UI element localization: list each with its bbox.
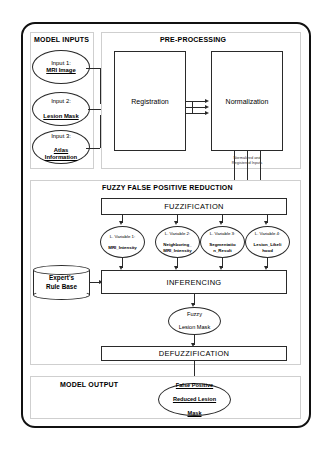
edge-reg-norm-3 <box>186 113 206 114</box>
edge-reg-norm-1 <box>186 101 206 102</box>
arrow-fuzz-lv4 <box>264 221 268 225</box>
panel-title-fuzzy-reduction: FUZZY FALSE POSITIVE REDUCTION <box>102 184 233 191</box>
lv3-line3: n_Result <box>213 248 232 253</box>
arrow-reg-norm-1 <box>205 99 209 103</box>
fuzzy-lesion-mask-label: Fuzzy Lesion Mask <box>175 311 214 331</box>
process-label-inferencing: INFERENCING <box>167 278 222 287</box>
linguistic-variable-2: L. Variable 2: Neighboring_ MRI_Intensit… <box>155 226 200 258</box>
process-box-registration: Registration <box>114 51 186 151</box>
rule-base-line2: Rule Base <box>46 283 77 291</box>
linguistic-variable-4-label: L. Variable 4: Lesion_Likeli hood <box>251 231 285 253</box>
lv4-line3: hood <box>262 248 273 253</box>
lv2-line1: L. Variable 2: <box>163 231 193 237</box>
linguistic-variable-1: L. Variable 1: MRI_Intensity <box>100 226 145 258</box>
input-label-1: Input 1: MRI Image <box>42 60 79 74</box>
linguistic-variable-2-label: L. Variable 2: Neighboring_ MRI_Intensit… <box>161 231 195 253</box>
lv1-line2: MRI_Intensity <box>108 245 137 250</box>
arrow-reg-norm-2 <box>205 105 209 109</box>
input-ellipse-lesion-mask: Input 2: Lesion Mask <box>32 92 90 126</box>
linguistic-variable-4: L. Variable 4: Lesion_Likeli hood <box>245 226 290 258</box>
edge-reg-norm-2 <box>186 107 206 108</box>
input-name-2: Lesion Mask <box>41 113 80 120</box>
arrow-fuzz-lv3 <box>219 221 223 225</box>
edge-input1-h1 <box>86 68 100 69</box>
input-label-3: Input 3: Atlas Information <box>33 133 89 162</box>
linguistic-variable-3: L. Variable 3: Segmentatio n_Result <box>200 226 245 258</box>
ellipse-model-output: False Positive Reduced Lesion Mask <box>158 383 231 416</box>
lv1-line1: L. Variable 1: <box>108 234 138 240</box>
lv4-line1: L. Variable 4: <box>253 231 283 237</box>
panel-title-pre-processing: PRE-PROCESSING <box>160 36 226 43</box>
edge-note-line1: Normalized and <box>233 155 260 160</box>
diagram-canvas: MODEL INPUTS Input 1: MRI Image Input 2:… <box>0 0 329 454</box>
process-bar-defuzzification: DEFUZZIFICATION <box>101 346 287 361</box>
process-box-normalization: Normalization <box>211 51 283 151</box>
edge-input3-h1 <box>86 148 100 149</box>
process-label-registration: Registration <box>131 98 168 105</box>
edge-note-normalized-registered: Normalized and Registered Inputs <box>212 155 282 166</box>
lv3-line1: L. Variable 3: <box>208 231 238 237</box>
lv2-line2: Neighboring_ <box>163 242 191 247</box>
edge-reg-bus <box>192 101 193 113</box>
panel-title-model-output: MODEL OUTPUT <box>60 381 118 388</box>
lv3-line2: Segmentatio <box>209 242 235 247</box>
arrow-fuzz-lv1 <box>119 221 123 225</box>
ellipse-fuzzy-lesion-mask: Fuzzy Lesion Mask <box>168 307 221 335</box>
input-ellipse-mri-image: Input 1: MRI Image <box>32 50 90 84</box>
arrow-reg-norm-3 <box>205 111 209 115</box>
process-label-normalization: Normalization <box>226 98 269 105</box>
output-line2: Reduced Lesion <box>171 396 218 403</box>
rule-base-line1: Expert's <box>49 274 74 282</box>
linguistic-variable-3-label: L. Variable 3: Segmentatio n_Result <box>206 231 240 253</box>
input-prefix-1: Input 1: <box>44 60 77 67</box>
output-line1: False Positive <box>171 382 218 389</box>
input-prefix-3: Input 3: <box>35 133 87 140</box>
input-label-2: Input 2: Lesion Mask <box>39 98 82 120</box>
process-bar-inferencing: INFERENCING <box>101 270 287 294</box>
process-label-fuzzification: FUZZIFICATION <box>164 202 224 211</box>
edge-note-line2: Registered Inputs <box>232 160 263 165</box>
linguistic-variable-1-label: L. Variable 1: MRI_Intensity <box>106 234 140 251</box>
lv4-line2: Lesion_Likeli <box>254 242 282 247</box>
process-label-defuzzification: DEFUZZIFICATION <box>159 349 230 358</box>
input-name-1: MRI Image <box>44 67 77 74</box>
process-bar-fuzzification: FUZZIFICATION <box>101 198 287 215</box>
input-prefix-2: Input 2: <box>41 98 80 105</box>
input-ellipse-atlas-information: Input 3: Atlas Information <box>32 130 90 164</box>
datastore-label: Expert's Rule Base <box>33 265 90 300</box>
flm-line1: Fuzzy <box>177 311 212 318</box>
datastore-experts-rule-base: Expert's Rule Base <box>33 265 90 300</box>
arrow-fuzz-lv2 <box>174 221 178 225</box>
flm-line2: Lesion Mask <box>177 324 212 331</box>
model-output-label: False Positive Reduced Lesion Mask <box>169 382 220 416</box>
input-name-3: Atlas Information <box>35 147 87 161</box>
panel-title-model-inputs: MODEL INPUTS <box>34 36 89 43</box>
output-line3: Mask <box>171 410 218 417</box>
lv2-line3: MRI_Intensity <box>163 248 192 253</box>
